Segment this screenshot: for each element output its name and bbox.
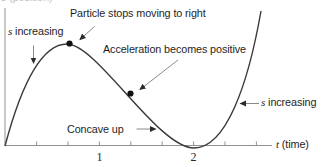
annotation-acceleration-positive: Acceleration becomes positive bbox=[103, 43, 246, 55]
y-axis-label-cropped: s (position) bbox=[1, 0, 53, 3]
x-tick-label-2: 2 bbox=[187, 150, 201, 165]
annotation-concave-up: Concave up bbox=[67, 123, 124, 135]
annotation-particle-stops: Particle stops moving to right bbox=[70, 7, 206, 19]
x-axis-label: t (time) bbox=[276, 138, 309, 150]
x-tick-label-1: 1 bbox=[92, 150, 106, 165]
annotation-right-increasing: s increasing bbox=[261, 96, 316, 108]
x-axis-ticks bbox=[37, 142, 257, 146]
left-increasing-text: increasing bbox=[12, 25, 63, 37]
position-time-figure: s (position) Particle stops moving to ri… bbox=[0, 0, 324, 167]
y-axis-label-text: s (position) bbox=[1, 0, 53, 3]
right-increasing-text: increasing bbox=[265, 96, 316, 108]
acceleration-arrow bbox=[140, 60, 178, 90]
particle-stops-arrow bbox=[80, 27, 95, 40]
annotation-left-increasing: s increasing bbox=[8, 25, 63, 37]
inflection-point bbox=[127, 90, 133, 96]
local-max-point bbox=[66, 40, 72, 46]
x-axis-label-unit: (time) bbox=[279, 138, 309, 150]
